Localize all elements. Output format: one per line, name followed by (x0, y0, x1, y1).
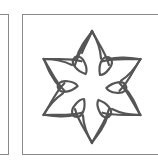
six-petal-knot-icon (0, 0, 158, 162)
